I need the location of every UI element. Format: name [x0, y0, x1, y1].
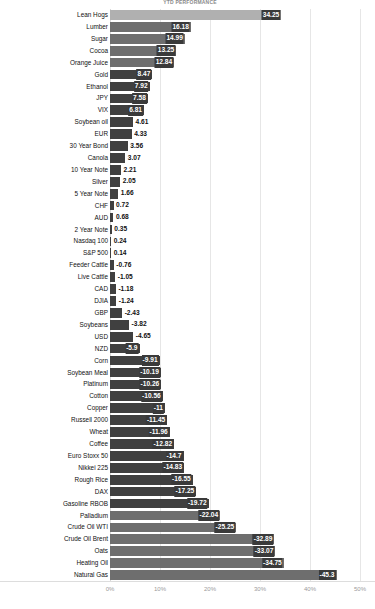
x-tick-label: 40% — [304, 586, 316, 592]
bar-row: USD-4.65 — [0, 331, 375, 343]
bar-value-label: 1.66 — [120, 188, 135, 199]
bar-row: 2 Year Note0.35 — [0, 224, 375, 236]
x-axis: 0%10%20%30%40%50% — [0, 583, 375, 603]
bar-value-label: 3.56 — [129, 141, 144, 152]
category-label: VIX — [98, 104, 108, 116]
category-label: S&P 500 — [83, 247, 108, 259]
bar-row: Orange Juice12.84 — [0, 57, 375, 69]
category-label: Coffee — [89, 438, 108, 450]
bar-row: Corn-9.91 — [0, 355, 375, 367]
bar — [110, 237, 111, 247]
bar-value-label: 7.92 — [134, 81, 149, 92]
bar-row: Platinum-10.26 — [0, 378, 375, 390]
bar-value-label: -17.25 — [175, 486, 196, 497]
bar-value-label: -22.04 — [198, 510, 219, 521]
bar — [110, 284, 116, 294]
bar-row: Crude Oil WTI-25.25 — [0, 521, 375, 533]
category-label: Oats — [95, 545, 109, 557]
category-label: Crude Oil WTI — [68, 521, 108, 533]
bar-row: 5 Year Note1.66 — [0, 188, 375, 200]
bar-row: EUR4.33 — [0, 128, 375, 140]
bar-row: CAD-1.18 — [0, 283, 375, 295]
bar-value-label: -5.9 — [125, 343, 138, 354]
category-label: Palladium — [80, 510, 108, 522]
bar-value-label: -1.05 — [117, 272, 134, 283]
bar-row: Wheat-11.96 — [0, 426, 375, 438]
bar-value-label: 13.25 — [157, 45, 176, 56]
bar-row: Lean Hogs34.25 — [0, 9, 375, 21]
bar-value-label: -0.76 — [115, 260, 132, 271]
bar-value-label: -25.25 — [215, 522, 236, 533]
category-label: Cotton — [89, 390, 108, 402]
bar-value-label: 3.07 — [127, 153, 142, 164]
bar — [110, 129, 132, 139]
category-label: Soybean Meal — [67, 367, 108, 379]
bar-value-label: -16.55 — [171, 474, 192, 485]
bar — [110, 558, 284, 568]
bar — [110, 296, 116, 306]
category-label: Gold — [95, 69, 109, 81]
bar — [110, 546, 275, 556]
bar-value-label: 34.25 — [262, 10, 281, 21]
bar-row: Oats-33.07 — [0, 545, 375, 557]
bar-value-label: -4.65 — [135, 331, 152, 342]
bar — [110, 225, 112, 235]
bar-value-label: -11.45 — [146, 415, 166, 426]
bar-value-label: -33.07 — [254, 546, 275, 557]
bar-value-label: -10.56 — [141, 391, 162, 402]
category-label: Heating Oil — [76, 557, 108, 569]
x-tick-label: 50% — [354, 586, 366, 592]
bar — [110, 10, 281, 20]
bar — [110, 117, 133, 127]
bar-value-label: -1.24 — [118, 296, 135, 307]
bar-value-label: 0.72 — [115, 200, 130, 211]
category-label: Corn — [94, 355, 108, 367]
bar-value-label: 0.14 — [113, 248, 128, 259]
category-label: 2 Year Note — [75, 224, 108, 236]
category-label: Crude Oil Brent — [64, 533, 108, 545]
bar-row: Soybean oil4.61 — [0, 116, 375, 128]
bar-row: Sugar14.99 — [0, 33, 375, 45]
category-label: Gasoline RBOB — [63, 498, 108, 510]
bar-row: Lumber16.18 — [0, 21, 375, 33]
bar — [110, 320, 129, 330]
category-label: GBP — [95, 307, 109, 319]
bar-row: Soybeans-3.82 — [0, 319, 375, 331]
bar — [110, 272, 115, 282]
bar — [110, 248, 111, 258]
bar — [110, 260, 114, 270]
bar-value-label: 2.05 — [122, 176, 137, 187]
category-label: Rough Rice — [75, 474, 108, 486]
bar-value-label: -14.83 — [162, 462, 183, 473]
x-axis-line — [0, 581, 375, 582]
bar-row: Russell 2000-11.45 — [0, 414, 375, 426]
bar — [110, 570, 337, 580]
category-label: JPY — [96, 92, 108, 104]
category-label: Nikkei 225 — [78, 462, 108, 474]
bar-value-label: -9.91 — [142, 355, 159, 366]
bar-row: NZD-5.9 — [0, 343, 375, 355]
bar — [110, 534, 274, 544]
bar-value-label: -11.96 — [148, 427, 168, 438]
bar-row: Soybean Meal-10.19 — [0, 367, 375, 379]
bar-row: AUD0.68 — [0, 212, 375, 224]
bar-row: DAX-17.25 — [0, 486, 375, 498]
category-label: Lean Hogs — [77, 9, 108, 21]
bar-row: Live Cattle-1.05 — [0, 271, 375, 283]
category-label: CAD — [95, 283, 109, 295]
category-label: Copper — [87, 402, 108, 414]
bar — [110, 213, 113, 223]
category-label: Cocoa — [90, 45, 108, 57]
bar-value-label: 14.99 — [165, 33, 184, 44]
bar — [110, 177, 120, 187]
bar-row: Crude Oil Brent-32.89 — [0, 533, 375, 545]
bar — [110, 153, 125, 163]
category-label: Ethanol — [86, 81, 108, 93]
bar-row: Silver2.05 — [0, 176, 375, 188]
x-tick-label: 0% — [106, 586, 115, 592]
bar-value-label: -34.75 — [262, 558, 283, 569]
bar-row: VIX6.81 — [0, 104, 375, 116]
bar-value-label: 12.84 — [155, 57, 174, 68]
bar-value-label: -45.3 — [318, 570, 335, 581]
bar-row: Euro Stoxx 50-14.7 — [0, 450, 375, 462]
